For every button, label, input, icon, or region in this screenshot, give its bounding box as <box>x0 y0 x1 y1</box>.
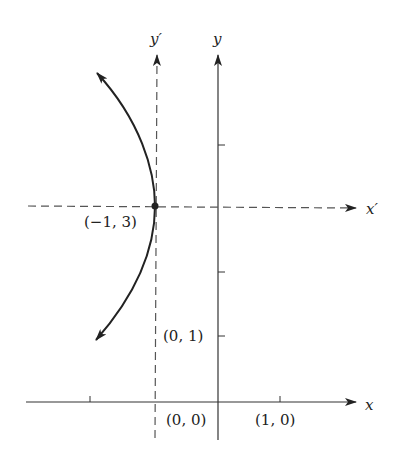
diagram-canvas: y′ y x′ x (−1, 3) (0, 1) (0, 0) (1, 0) <box>0 0 404 463</box>
x-one-label: (1, 0) <box>255 411 295 429</box>
x-label: x <box>365 396 374 414</box>
y-one-label: (0, 1) <box>163 327 203 345</box>
origin-label: (0, 0) <box>166 411 206 429</box>
y-prime-axis <box>155 55 157 438</box>
x-prime-axis <box>28 206 356 208</box>
y-prime-label: y′ <box>149 30 162 48</box>
y-axis <box>218 55 225 440</box>
vertex-point <box>152 203 159 210</box>
vertex-label: (−1, 3) <box>84 213 137 231</box>
x-axis <box>26 396 356 402</box>
y-label: y <box>212 30 222 48</box>
x-prime-label: x′ <box>366 200 378 218</box>
